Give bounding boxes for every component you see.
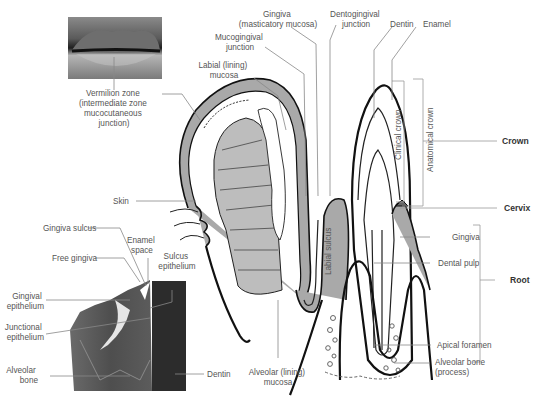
label-skin: Skin [113,197,129,206]
label-gingival-epithelium: Gingival epithelium [7,292,44,311]
label-apical-foramen: Apical foramen [437,341,492,350]
label-alveolar-bone-process: Alveolar bone (process) [435,358,487,377]
label-anatomical-crown: Anatomical crown [426,107,435,172]
lip-cross-section [170,79,311,342]
label-sulcus-epithelium: Sulcus epithelium [158,252,195,271]
label-dental-pulp: Dental pulp [438,259,480,268]
oral-anatomy-diagram: Vermilion zone (intermediate zone mucocu… [0,0,534,413]
tooth [340,85,432,380]
label-dentogingival-junction: Dentogingival junction [330,10,382,29]
label-labial-sulcus: Labial sulcus [324,228,333,275]
label-dentin-histology: Dentin [207,370,231,379]
label-junctional-epithelium: Junctional epithelium [5,323,44,342]
label-labial-lining-mucosa: Labial (lining) mucosa [199,61,250,80]
label-alveolar-lining-mucosa: Alveolar (lining) mucosa [249,368,308,387]
label-gingiva-masticatory: Gingiva (masticatory mucosa) [239,10,318,29]
anatomical-crown-bracket [402,79,423,206]
label-clinical-crown: Clinical crown [394,109,403,160]
label-vermilion-zone: Vermilion zone (intermediate zone mucocu… [79,89,149,128]
label-root: Root [510,275,530,285]
label-dentin-top: Dentin [390,20,414,29]
label-cervix: Cervix [504,203,530,213]
label-enamel: Enamel [423,20,451,29]
label-free-gingiva: Free gingiva [52,254,98,263]
label-gingiva-right: Gingiva [452,233,480,242]
label-mucogingival-junction: Mucogingival junction [215,33,265,52]
label-enamel-space: Enamel space [127,236,157,255]
label-crown: Crown [502,136,529,146]
label-gingiva-sulcus: Gingiva sulcus [43,224,96,233]
gingiva-histology-micrograph [70,280,186,391]
lips-photo [68,17,162,79]
label-alveolar-bone-left: Alveolar bone [6,366,38,385]
